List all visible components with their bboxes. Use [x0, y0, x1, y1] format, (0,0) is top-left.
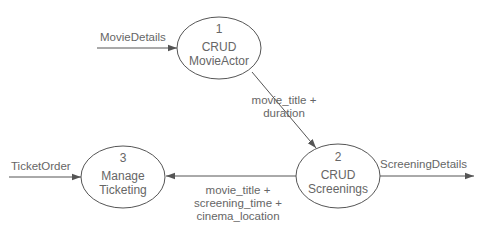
- process-manage-ticketing[interactable]: 3 Manage Ticketing: [81, 146, 165, 208]
- flow-screening-info[interactable]: movie_title + screening_time + cinema_lo…: [166, 176, 296, 222]
- process-crud-screenings[interactable]: 2 CRUD Screenings: [296, 144, 380, 208]
- flow-label-movie-details: MovieDetails: [100, 31, 166, 43]
- flow-label-line2: duration: [263, 107, 305, 119]
- flow-label-line1: movie_title +: [252, 94, 317, 106]
- flow-movie-details[interactable]: MovieDetails: [97, 31, 177, 48]
- data-flow-diagram: MovieDetails 1 CRUD MovieActor movie_tit…: [0, 0, 486, 235]
- process-crud-movieactor[interactable]: 1 CRUD MovieActor: [177, 17, 261, 79]
- process-number: 3: [120, 151, 127, 165]
- flow-label-line1: movie_title +: [206, 184, 271, 196]
- process-label-line2: Screenings: [308, 182, 368, 196]
- process-number: 2: [335, 150, 342, 164]
- process-label-line1: Manage: [101, 169, 145, 183]
- process-label-line1: CRUD: [202, 40, 237, 54]
- flow-movie-title-duration[interactable]: movie_title + duration: [252, 72, 317, 148]
- process-label-line2: Ticketing: [99, 183, 147, 197]
- process-number: 1: [216, 22, 223, 36]
- flow-label-line3: cinema_location: [196, 210, 279, 222]
- process-label-line2: MovieActor: [189, 54, 249, 68]
- process-label-line1: CRUD: [321, 168, 356, 182]
- flow-label-ticket-order: TicketOrder: [11, 160, 71, 172]
- flow-label-line2: screening_time +: [194, 197, 282, 209]
- flow-screening-details[interactable]: ScreeningDetails: [380, 158, 474, 176]
- flow-ticket-order[interactable]: TicketOrder: [9, 160, 81, 177]
- flow-label-screening-details: ScreeningDetails: [380, 158, 467, 170]
